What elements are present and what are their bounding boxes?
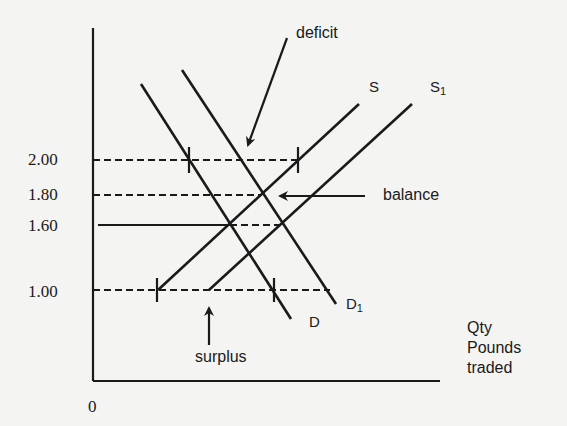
supply-demand-diagram: 2.00 1.80 1.60 1.00 0 S S1 D D1 deficit …: [0, 0, 567, 426]
price-lines: [93, 160, 330, 290]
origin-label: 0: [88, 397, 97, 416]
x-axis-label-line-1: Qty: [467, 319, 492, 336]
label-s1: S1: [430, 78, 446, 97]
axes: [93, 28, 440, 381]
y-tick-1-00: 1.00: [28, 282, 58, 301]
label-d: D: [309, 313, 320, 330]
y-tick-1-60: 1.60: [28, 216, 58, 235]
annotation-arrows: [209, 38, 365, 345]
deficit-arrow: [248, 38, 287, 145]
balance-label: balance: [383, 186, 439, 203]
y-tick-1-80: 1.80: [28, 185, 58, 204]
deficit-label: deficit: [296, 24, 338, 41]
x-axis-label-line-3: traded: [467, 359, 512, 376]
label-s: S: [369, 78, 379, 95]
label-d1: D1: [346, 295, 363, 314]
surplus-label: surplus: [195, 348, 247, 365]
y-tick-2-00: 2.00: [28, 150, 58, 169]
x-axis-label-line-2: Pounds: [467, 339, 521, 356]
